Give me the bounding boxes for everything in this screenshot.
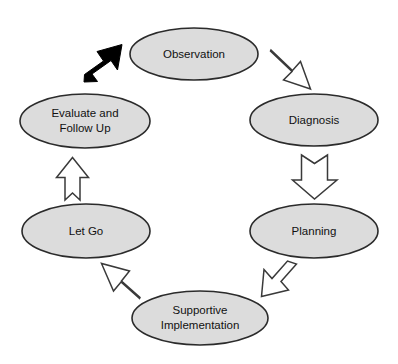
arrow-planning-to-supportive-implementation (262, 261, 297, 297)
node-supportive-implementation-label-line1: Supportive (173, 304, 228, 316)
diagram-canvas: Observation Diagnosis Planning Supportiv… (0, 0, 398, 364)
node-let-go-label: Let Go (69, 225, 104, 237)
node-let-go[interactable]: Let Go (22, 204, 150, 258)
arrow-supportive-implementation-to-let-go (102, 264, 141, 299)
node-observation-label: Observation (163, 48, 225, 60)
node-planning[interactable]: Planning (250, 204, 378, 258)
node-planning-label: Planning (292, 225, 337, 237)
arrow-diagnosis-to-planning (293, 155, 338, 199)
node-observation[interactable]: Observation (130, 28, 258, 80)
node-evaluate-and-follow-up-label-line1: Evaluate and (51, 107, 118, 119)
arrow-outline-down-right-shape (271, 50, 311, 89)
arrow-outline-down-shape (293, 155, 338, 199)
arrow-observation-to-diagnosis (271, 50, 311, 89)
node-supportive-implementation-label-line2: Implementation (161, 319, 240, 331)
node-diagnosis-label: Diagnosis (289, 114, 340, 126)
arrow-let-go-to-evaluate (57, 158, 89, 201)
node-supportive-implementation[interactable]: Supportive Implementation (132, 291, 268, 345)
node-evaluate-and-follow-up[interactable]: Evaluate and Follow Up (20, 94, 150, 148)
node-supportive-implementation-shape[interactable] (132, 291, 268, 345)
node-diagnosis[interactable]: Diagnosis (250, 94, 378, 146)
arrow-solid-up-right-shape (84, 45, 122, 83)
arrow-outline-up-shape (57, 158, 89, 201)
arrow-evaluate-to-observation (84, 45, 122, 83)
arrow-outline-up-left-shape (102, 264, 141, 299)
arrow-outline-down-left-shape (262, 261, 297, 297)
node-evaluate-and-follow-up-label-line2: Follow Up (59, 122, 110, 134)
cycle-diagram: Observation Diagnosis Planning Supportiv… (0, 0, 398, 364)
node-evaluate-and-follow-up-shape[interactable] (20, 94, 150, 148)
